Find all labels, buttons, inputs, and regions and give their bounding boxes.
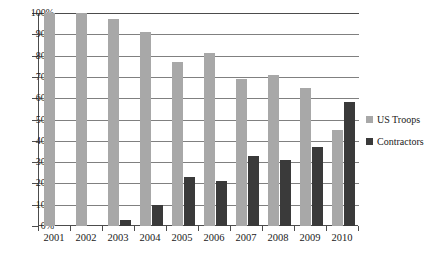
bar-contractors[interactable]	[120, 220, 131, 226]
bar-chart: 0%10%20%30%40%50%60%70%80%90%100% 200120…	[0, 0, 428, 260]
legend-item-us-troops[interactable]: US Troops	[366, 108, 428, 130]
bar-group	[103, 13, 135, 226]
bar-us-troops[interactable]	[140, 32, 151, 226]
bar-contractors[interactable]	[152, 205, 163, 226]
bar-us-troops[interactable]	[76, 13, 87, 226]
bar-us-troops[interactable]	[204, 53, 215, 226]
bar-group	[231, 13, 263, 226]
bar-contractors[interactable]	[280, 160, 291, 226]
x-axis-tick	[166, 226, 167, 231]
bar-us-troops[interactable]	[108, 19, 119, 226]
bar-group	[327, 13, 359, 226]
legend-item-contractors[interactable]: Contractors	[366, 130, 428, 152]
bar-contractors[interactable]	[184, 177, 195, 226]
bar-us-troops[interactable]	[236, 79, 247, 226]
x-axis-tick	[262, 226, 263, 231]
x-axis-label: 2010	[319, 232, 365, 244]
bar-group	[71, 13, 103, 226]
x-axis-tick	[38, 226, 39, 231]
legend-swatch-contractors	[366, 138, 373, 145]
x-axis-tick	[134, 226, 135, 231]
x-axis-tick	[198, 226, 199, 231]
bar-group	[135, 13, 167, 226]
bar-group	[263, 13, 295, 226]
bar-us-troops[interactable]	[332, 130, 343, 226]
bar-contractors[interactable]	[248, 156, 259, 226]
bar-us-troops[interactable]	[268, 75, 279, 226]
bar-us-troops[interactable]	[44, 13, 55, 226]
chart-legend: US Troops Contractors	[366, 108, 428, 152]
x-axis-tick	[230, 226, 231, 231]
bars-layer	[39, 13, 359, 226]
bar-group	[39, 13, 71, 226]
x-axis-tick	[294, 226, 295, 231]
x-axis-tick	[358, 226, 359, 231]
bar-group	[167, 13, 199, 226]
bar-group	[295, 13, 327, 226]
bar-group	[199, 13, 231, 226]
legend-label-contractors: Contractors	[377, 136, 424, 147]
bar-contractors[interactable]	[312, 147, 323, 226]
bar-us-troops[interactable]	[300, 88, 311, 226]
bar-us-troops[interactable]	[172, 62, 183, 226]
legend-swatch-us-troops	[366, 116, 373, 123]
x-axis-tick	[102, 226, 103, 231]
x-axis-tick	[70, 226, 71, 231]
legend-label-us-troops: US Troops	[377, 114, 420, 125]
x-axis-tick	[326, 226, 327, 231]
bar-contractors[interactable]	[344, 102, 355, 226]
bar-contractors[interactable]	[216, 181, 227, 226]
